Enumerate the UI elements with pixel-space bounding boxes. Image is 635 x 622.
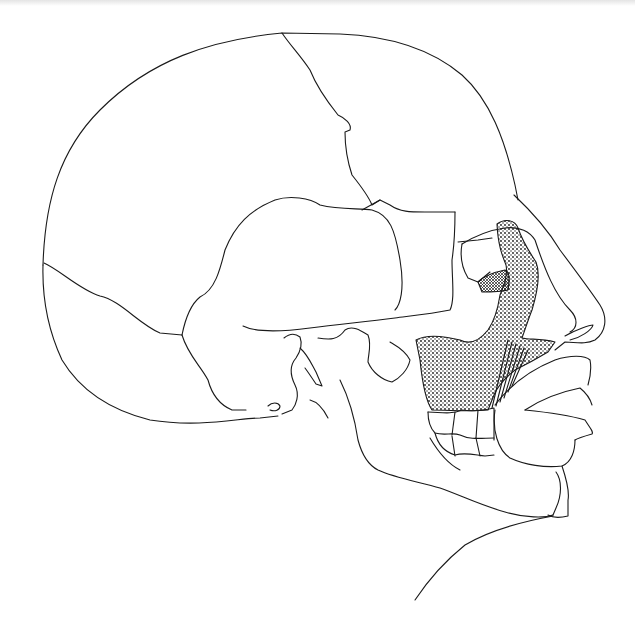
zygomatic-arch-line: [243, 212, 455, 331]
mastoid-process: [282, 334, 301, 414]
nostril: [565, 325, 593, 340]
occipital-lower-outline: [43, 265, 278, 423]
coronoid-notch: [310, 400, 328, 418]
lower-lip: [525, 410, 593, 440]
occipital-temporal-suture: [182, 335, 246, 410]
coronal-suture: [282, 33, 380, 205]
cranial-vault-outline: [43, 33, 518, 265]
maxillary-sinus-stippled: [416, 221, 555, 411]
orbit-floor-stippled: [478, 270, 509, 292]
lambdoid-suture: [44, 263, 182, 335]
styloid-process: [300, 348, 322, 386]
external-ear-canal: [268, 403, 280, 411]
dentition: [428, 408, 494, 470]
lip-line: [525, 388, 592, 410]
neck-outline: [415, 516, 553, 600]
chin-outline: [494, 410, 575, 467]
sphenoid-suture: [362, 200, 455, 212]
mandible-ramus: [318, 328, 410, 382]
squamosal-suture: [182, 198, 402, 335]
orbit-floor-line: [458, 238, 492, 242]
skull-illustration: [0, 0, 635, 622]
chin-lower: [548, 466, 568, 517]
chin-inner: [553, 472, 561, 515]
